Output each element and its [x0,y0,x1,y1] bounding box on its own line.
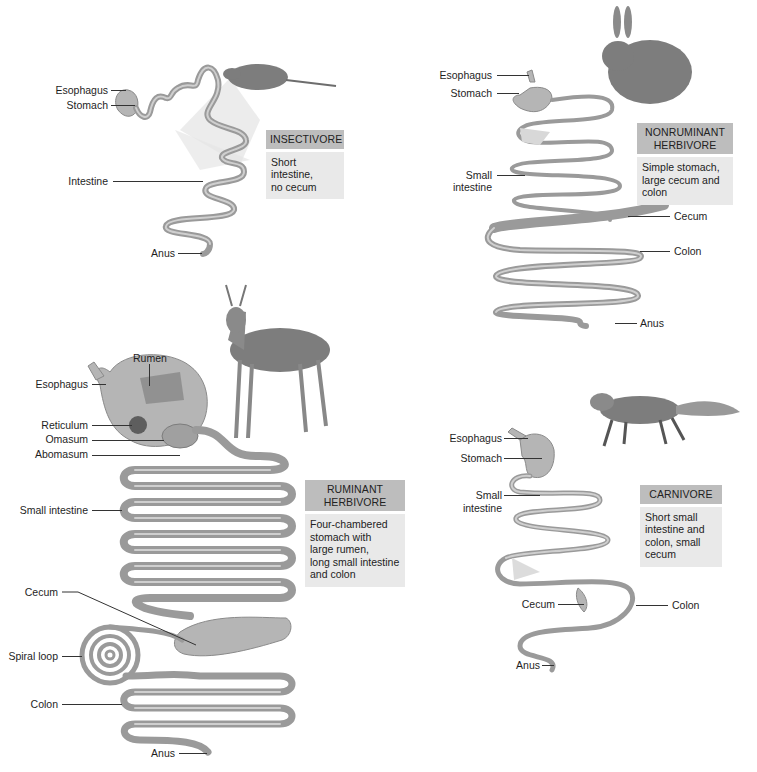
label-small: Small [450,489,502,501]
label-esophagus: Esophagus [10,378,88,390]
description-line: and colon [310,568,400,581]
label-esophagus: Esophagus [430,432,502,444]
description-line: Short intestine, [271,156,339,181]
description-line: stomach with [310,531,400,544]
leader-line [497,93,519,94]
label-cecum: Cecum [500,598,555,610]
illustration-layer [0,0,757,772]
label-colon: Colon [0,698,58,710]
title-line: RUMINANT [309,483,401,496]
diet-description: Short intestine, no cecum [266,152,344,200]
leader-line [542,665,554,666]
leader-line [178,253,202,254]
description-line: large rumen, [310,543,400,556]
label-intestine: intestine [440,181,492,193]
label-stomach: Stomach [430,452,502,464]
leader-line [179,753,207,754]
diet-type-title: INSECTIVORE [266,130,344,149]
diet-type-title: RUMINANT HERBIVORE [305,480,405,511]
leader-line [497,175,525,176]
description-line: intestine and [645,523,717,536]
label-stomach: Stomach [430,87,492,99]
label-omasum: Omasum [10,433,88,445]
description-line: Simple stomach, [642,161,728,174]
label-reticulum: Reticulum [10,419,88,431]
leader-line [92,425,132,426]
leader-line [636,605,668,606]
diet-type-title: NONRUMINANT HERBIVORE [637,123,733,154]
diet-description: Short small intestine and colon, small c… [640,507,722,567]
nonruminant-info-box: NONRUMINANT HERBIVORE Simple stomach, la… [637,123,733,205]
label-spiral-loop: Spiral loop [0,650,58,662]
leader-line [113,181,203,182]
leader-line [497,75,529,76]
label-anus: Anus [120,247,175,259]
label-esophagus: Esophagus [430,69,492,81]
leader-line [504,438,528,439]
leader-line [92,510,122,511]
description-line: cecum [645,548,717,561]
diet-description: Four-chambered stomach with large rumen,… [305,514,405,587]
leader-line [62,656,82,657]
carnivore-digestive-tract [498,428,633,670]
label-anus: Anus [140,747,175,759]
label-small-intestine: Small intestine [0,504,88,516]
leader-line [92,440,164,441]
ruminant-digestive-tract [82,355,292,752]
leader-line [92,455,180,456]
label-colon: Colon [672,599,699,611]
diet-description: Simple stomach, large cecum and colon [637,157,733,205]
description-line: large cecum and [642,174,728,187]
label-anus: Anus [510,659,540,671]
description-line: no cecum [271,181,339,194]
title-line: HERBIVORE [641,139,729,152]
label-small: Small [440,169,492,181]
leader-line [615,323,637,324]
title-line: NONRUMINANT [641,126,729,139]
label-intestine: intestine [450,502,502,514]
deer-illustration [226,285,330,438]
title-line: HERBIVORE [309,496,401,509]
label-cecum: Cecum [0,586,58,598]
description-line: long small intestine [310,556,400,569]
label-abomasum: Abomasum [10,448,88,460]
leader-line [558,604,584,605]
shrew-illustration [223,64,336,90]
insectivore-info-box: INSECTIVORE Short intestine, no cecum [266,130,344,199]
label-intestine: Intestine [40,175,108,187]
leader-line [504,458,542,459]
diet-type-title: CARNIVORE [640,485,722,504]
fox-illustration [590,393,740,446]
label-cecum: Cecum [674,210,707,222]
insectivore-digestive-tract [116,68,260,254]
label-anus: Anus [640,317,664,329]
ruminant-info-box: RUMINANT HERBIVORE Four-chambered stomac… [305,480,405,587]
label-rumen: Rumen [133,352,167,364]
label-stomach: Stomach [40,99,108,111]
leader-line [149,364,150,386]
rabbit-illustration [602,6,692,104]
description-line: Short small [645,511,717,524]
leader-line [62,704,122,705]
description-line: Four-chambered [310,518,400,531]
description-line: colon [642,186,728,199]
carnivore-info-box: CARNIVORE Short small intestine and colo… [640,485,722,567]
leader-line [640,251,670,252]
leader-line [628,216,670,217]
label-colon: Colon [674,245,701,257]
leader-line [504,495,540,496]
leader-line [111,105,135,106]
label-esophagus: Esophagus [40,84,108,96]
leader-line [111,90,126,91]
description-line: colon, small [645,536,717,549]
leader-line [92,384,106,385]
